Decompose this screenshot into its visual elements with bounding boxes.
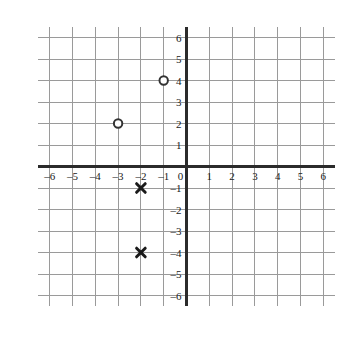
x-tick-label: 6 <box>321 171 327 182</box>
data-point-open-circle <box>114 119 122 127</box>
origin-label: 0 <box>178 171 184 182</box>
x-tick-label: –2 <box>135 171 146 182</box>
coordinate-plane: –6–5–4–3–2–10123456–6–5–4–3–2–1123456 <box>0 0 348 342</box>
x-tick-label: 2 <box>229 171 235 182</box>
x-tick-label: 3 <box>252 171 258 182</box>
x-tick-label: –3 <box>113 171 124 182</box>
x-tick-label: –5 <box>67 171 78 182</box>
x-tick-label: 4 <box>275 171 281 182</box>
y-tick-label: –4 <box>171 247 182 258</box>
y-tick-label: –2 <box>171 204 182 215</box>
y-tick-label: 6 <box>176 32 182 43</box>
y-tick-label: 4 <box>176 75 182 86</box>
x-tick-label: –6 <box>44 171 55 182</box>
data-point-open-circle <box>160 76 168 84</box>
y-tick-label: –5 <box>171 269 182 280</box>
axis-lines <box>38 27 334 307</box>
x-tick-label: 5 <box>298 171 304 182</box>
y-tick-label: 3 <box>176 97 182 108</box>
x-tick-label: –1 <box>158 171 169 182</box>
y-tick-label: 2 <box>176 118 182 129</box>
y-tick-label: 5 <box>176 54 182 65</box>
y-tick-label: –6 <box>171 290 182 301</box>
x-tick-label: 1 <box>207 171 213 182</box>
y-tick-label: 1 <box>176 140 182 151</box>
y-tick-label: –1 <box>171 183 182 194</box>
y-tick-label: –3 <box>171 226 182 237</box>
x-tick-label: –4 <box>90 171 101 182</box>
